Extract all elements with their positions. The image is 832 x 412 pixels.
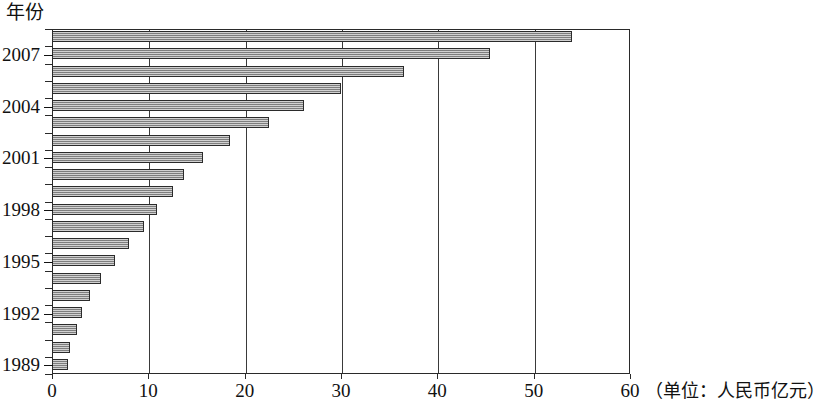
x-tick-0 [52, 374, 53, 379]
y-axis-label-2001: 2001 [2, 148, 40, 167]
y-tick-major-1998 [44, 210, 53, 211]
y-tick [45, 288, 53, 289]
x-axis-unit-label: （单位：人民币亿元） [645, 380, 825, 402]
x-axis-label-50: 50 [524, 380, 543, 402]
y-tick [45, 305, 53, 306]
y-tick [45, 133, 53, 134]
bar-2000 [52, 169, 184, 180]
y-tick-major-2007 [44, 55, 53, 56]
x-tick-60 [630, 374, 631, 379]
x-tick-30 [341, 374, 342, 379]
y-tick [45, 340, 53, 341]
bar-1991 [52, 324, 77, 335]
y-tick [45, 167, 53, 168]
y-tick-major-1992 [44, 314, 53, 315]
bar-1998 [52, 204, 157, 215]
y-tick [45, 115, 53, 116]
y-axis-labels: 2007200420011998199519921989 [0, 29, 42, 374]
x-axis-label-0: 0 [47, 380, 57, 402]
bar-2007 [52, 48, 490, 59]
bar-1993 [52, 290, 90, 301]
y-tick [45, 184, 53, 185]
y-tick-major-1989 [44, 365, 53, 366]
y-axis-label-1995: 1995 [2, 252, 40, 271]
bar-1989 [52, 359, 68, 370]
y-tick [45, 150, 53, 151]
y-axis-label-1998: 1998 [2, 200, 40, 219]
y-tick [45, 29, 53, 30]
y-axis-label-2004: 2004 [2, 97, 40, 116]
bar-1999 [52, 186, 173, 197]
y-tick-major-1995 [44, 262, 53, 263]
bar-1994 [52, 273, 101, 284]
y-tick [45, 98, 53, 99]
y-axis-label-2007: 2007 [2, 45, 40, 64]
y-tick [45, 81, 53, 82]
x-tick-20 [245, 374, 246, 379]
bar-2004 [52, 100, 304, 111]
bar-1996 [52, 238, 129, 249]
y-tick [45, 236, 53, 237]
y-axis-title: 年份 [6, 2, 44, 24]
y-tick [45, 202, 53, 203]
x-axis-label-40: 40 [428, 380, 447, 402]
bar-1990 [52, 342, 70, 353]
x-tick-40 [437, 374, 438, 379]
y-tick [45, 253, 53, 254]
x-axis-label-30: 30 [332, 380, 351, 402]
x-axis-label-10: 10 [139, 380, 158, 402]
bar-2006 [52, 66, 404, 77]
bar-1992 [52, 307, 82, 318]
bar-1997 [52, 221, 144, 232]
y-tick-major-2001 [44, 158, 53, 159]
bar-2008 [52, 31, 572, 42]
y-tick-major-2004 [44, 107, 53, 108]
x-axis-label-60: 60 [621, 380, 640, 402]
y-axis-label-1989: 1989 [2, 355, 40, 374]
x-axis-label-20: 20 [235, 380, 254, 402]
bar-2003 [52, 117, 269, 128]
x-tick-10 [148, 374, 149, 379]
bars-layer [52, 29, 630, 374]
x-tick-50 [534, 374, 535, 379]
bar-chart: 年份 2007200420011998199519921989 01020304… [0, 0, 832, 412]
bar-1995 [52, 255, 115, 266]
y-tick [45, 64, 53, 65]
y-tick [45, 357, 53, 358]
bar-2002 [52, 135, 230, 146]
y-tick [45, 271, 53, 272]
y-tick [45, 219, 53, 220]
y-axis-label-1992: 1992 [2, 304, 40, 323]
bar-2005 [52, 83, 341, 94]
y-tick [45, 322, 53, 323]
bar-2001 [52, 152, 203, 163]
y-axis-ticks [44, 29, 53, 374]
y-tick [45, 46, 53, 47]
